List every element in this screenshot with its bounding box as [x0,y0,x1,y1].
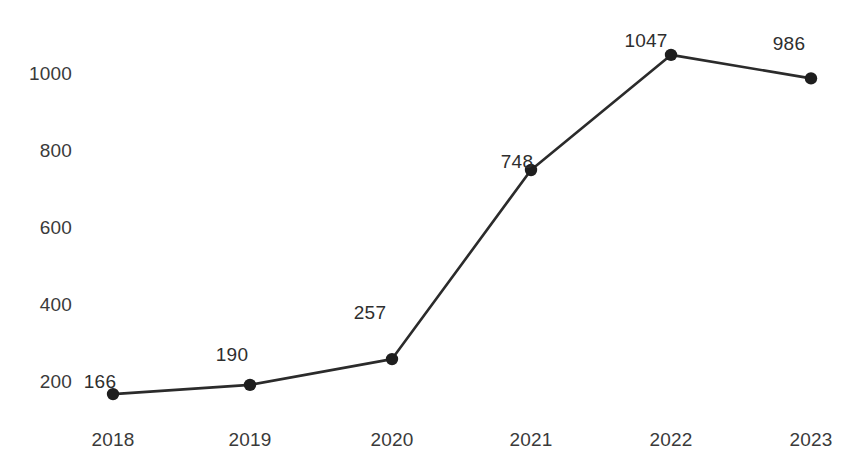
line-chart: 1000 800 600 400 200 2018 2019 2020 2021… [0,0,854,473]
chart-plot-area [0,0,854,473]
data-point-marker-2019[interactable] [244,379,256,391]
data-point-marker-2020[interactable] [386,353,398,365]
x-axis-tick-2018: 2018 [63,430,163,449]
y-axis-tick-400: 400 [0,295,72,314]
data-label-2023: 986 [749,34,829,53]
y-axis-tick-1000: 1000 [0,64,72,83]
x-axis-tick-2023: 2023 [761,430,854,449]
y-axis-tick-800: 800 [0,141,72,160]
x-axis-tick-2021: 2021 [481,430,581,449]
data-label-2019: 190 [192,345,272,364]
y-axis-tick-600: 600 [0,218,72,237]
data-label-2022: 1047 [606,31,686,50]
chart-background [0,0,854,473]
data-label-2021: 748 [477,152,557,171]
x-axis-tick-2019: 2019 [200,430,300,449]
x-axis-tick-2022: 2022 [621,430,721,449]
data-point-marker-2023[interactable] [805,72,817,84]
x-axis-tick-2020: 2020 [342,430,442,449]
data-label-2018: 166 [60,372,140,391]
data-label-2020: 257 [330,303,410,322]
